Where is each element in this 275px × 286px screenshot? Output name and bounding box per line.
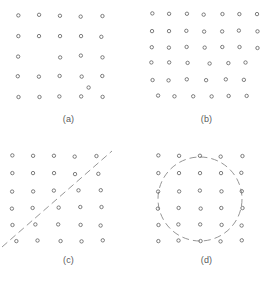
data-point-marker: [37, 75, 40, 78]
data-point-marker: [241, 154, 244, 157]
data-point-marker: [31, 154, 34, 157]
data-point-marker: [101, 239, 104, 242]
panel-c-plot: [0, 143, 137, 255]
data-point-marker: [219, 171, 222, 174]
data-point-marker: [17, 34, 20, 37]
data-point-marker: [240, 224, 243, 227]
data-point-marker: [80, 240, 83, 243]
panel-b-caption: (b): [138, 114, 275, 125]
data-point-marker: [167, 12, 170, 15]
data-point-marker: [237, 29, 240, 32]
data-point-marker: [203, 46, 206, 49]
data-point-marker: [79, 34, 82, 37]
data-point-marker: [77, 189, 80, 192]
data-point-marker: [256, 30, 259, 33]
data-point-marker: [37, 13, 40, 16]
data-point-marker: [157, 171, 160, 174]
data-point-marker: [177, 239, 180, 242]
data-point-marker: [31, 206, 34, 209]
panel-b: (b): [138, 2, 275, 142]
data-point-marker: [80, 75, 83, 78]
data-point-marker: [101, 95, 104, 98]
data-point-marker: [11, 223, 14, 226]
panel-c: (c): [0, 143, 137, 286]
data-point-marker: [87, 86, 90, 89]
data-point-marker: [58, 56, 61, 59]
data-point-marker: [202, 13, 205, 16]
data-point-marker: [58, 34, 61, 37]
data-point-marker: [36, 239, 39, 242]
data-point-marker: [16, 55, 19, 58]
panel-b-plot: [138, 2, 275, 114]
data-point-marker: [255, 12, 258, 15]
data-point-marker: [79, 95, 82, 98]
data-point-marker: [10, 207, 13, 210]
data-point-marker: [59, 239, 62, 242]
data-point-marker: [52, 171, 55, 174]
data-point-marker: [101, 74, 104, 77]
data-point-marker: [151, 78, 154, 81]
data-point-marker: [224, 78, 227, 81]
panel-d: (d): [138, 143, 275, 286]
data-point-marker: [221, 12, 224, 15]
data-point-marker: [97, 172, 100, 175]
data-point-marker: [99, 189, 102, 192]
data-point-marker: [79, 223, 82, 226]
data-point-marker: [221, 45, 224, 48]
data-point-marker: [241, 206, 244, 209]
data-point-marker: [177, 154, 180, 157]
data-point-marker: [52, 154, 55, 157]
data-point-marker: [150, 29, 153, 32]
data-point-marker: [256, 46, 259, 49]
data-point-marker: [150, 61, 153, 64]
data-point-marker: [37, 34, 40, 37]
data-point-marker: [167, 29, 170, 32]
data-point-marker: [240, 239, 243, 242]
data-point-marker: [31, 171, 34, 174]
data-point-marker: [220, 206, 223, 209]
panel-a-plot: [0, 2, 137, 114]
data-point-marker: [167, 79, 170, 82]
data-point-marker: [56, 223, 59, 226]
data-point-marker: [186, 61, 189, 64]
data-point-marker: [150, 46, 153, 49]
data-point-marker: [100, 205, 103, 208]
data-point-marker: [198, 223, 201, 226]
data-point-marker: [199, 207, 202, 210]
data-point-marker: [244, 61, 247, 64]
data-point-marker: [238, 45, 241, 48]
dashed-circle-boundary: [158, 157, 242, 241]
data-point-marker: [79, 54, 82, 57]
data-point-marker: [185, 45, 188, 48]
data-point-marker: [208, 62, 211, 65]
data-point-marker: [227, 61, 230, 64]
data-point-marker: [177, 171, 180, 174]
data-point-marker: [157, 223, 160, 226]
data-point-marker: [10, 190, 13, 193]
data-point-marker: [173, 95, 176, 98]
data-point-marker: [177, 190, 180, 193]
data-point-marker: [16, 75, 19, 78]
data-point-marker: [219, 155, 222, 158]
data-point-marker: [17, 14, 20, 17]
data-point-marker: [100, 35, 103, 38]
data-point-marker: [57, 206, 60, 209]
data-point-marker: [240, 171, 243, 174]
data-point-marker: [198, 171, 201, 174]
data-point-marker: [11, 171, 14, 174]
data-point-marker: [11, 154, 14, 157]
data-point-marker: [177, 206, 180, 209]
panel-d-caption: (d): [138, 255, 275, 266]
data-point-marker: [242, 78, 245, 81]
data-point-marker: [210, 95, 213, 98]
data-point-marker: [73, 155, 76, 158]
data-point-marker: [151, 12, 154, 15]
dashed-diagonal-boundary: [2, 151, 112, 247]
figure-root: (a) (b) (c) (d): [0, 0, 275, 286]
data-point-marker: [185, 12, 188, 15]
data-point-marker: [185, 78, 188, 81]
data-point-marker: [99, 224, 102, 227]
panel-c-caption: (c): [0, 255, 137, 266]
data-point-marker: [157, 239, 160, 242]
data-point-marker: [79, 205, 82, 208]
